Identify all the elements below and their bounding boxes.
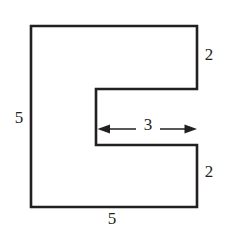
dimension-label-top-right-2: 2 xyxy=(200,46,218,63)
dimension-label-notch-3: 3 xyxy=(137,116,159,133)
arrow-head-right-icon xyxy=(185,125,198,134)
dimension-label-bottom-right-2: 2 xyxy=(200,163,218,180)
figure-canvas xyxy=(0,0,233,239)
geometry-figure: 5 5 2 2 3 xyxy=(0,0,233,239)
dimension-label-left-5: 5 xyxy=(10,109,28,126)
c-shaped-polygon xyxy=(31,26,197,207)
arrow-head-left-icon xyxy=(98,125,111,134)
dimension-label-bottom-5: 5 xyxy=(101,210,123,227)
